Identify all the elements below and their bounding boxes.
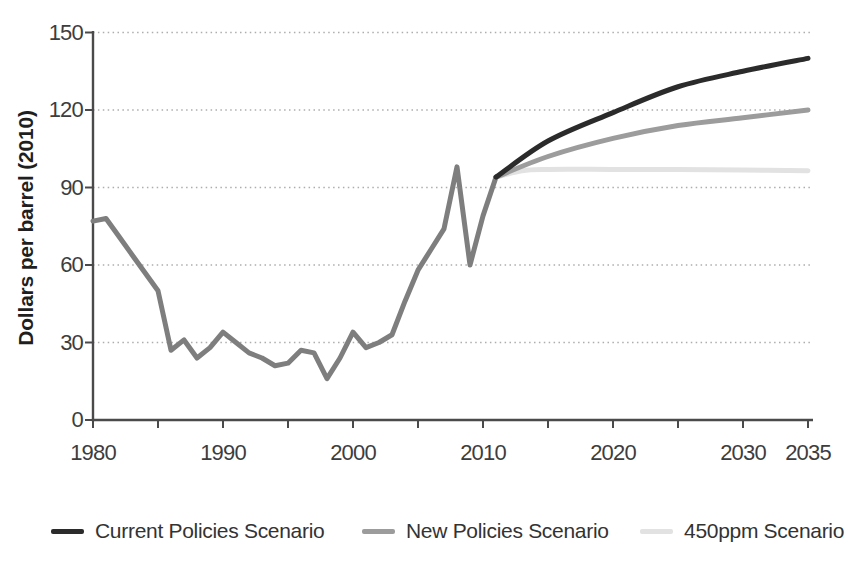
- svg-text:1980: 1980: [70, 440, 116, 465]
- legend-item-450ppm-scenario: 450ppm Scenario: [640, 518, 844, 544]
- legend-label-450ppm-scenario: 450ppm Scenario: [684, 519, 844, 543]
- svg-text:2000: 2000: [330, 440, 376, 465]
- oil-price-scenarios-chart: Dollars per barrel (2010) 03060901201501…: [0, 0, 853, 564]
- legend-swatch-new-policies-scenario: [362, 529, 395, 534]
- svg-text:1990: 1990: [200, 440, 246, 465]
- series-450ppm-scenario: [496, 169, 808, 177]
- svg-text:2020: 2020: [590, 440, 636, 465]
- y-tick-labels: 0306090120150: [49, 20, 84, 433]
- legend-label-new-policies-scenario: New Policies Scenario: [406, 519, 609, 543]
- legend-swatch-450ppm-scenario: [640, 529, 673, 534]
- svg-text:90: 90: [60, 175, 83, 200]
- svg-text:120: 120: [49, 97, 84, 122]
- x-tick-labels: 1980199020002010202020302035: [70, 440, 831, 465]
- chart-plot-area: 0306090120150198019902000201020202030203…: [0, 0, 853, 564]
- legend-item-current-policies-scenario: Current Policies Scenario: [51, 518, 324, 544]
- svg-text:2035: 2035: [785, 440, 831, 465]
- svg-text:0: 0: [72, 407, 84, 432]
- legend-swatch-current-policies-scenario: [51, 529, 84, 534]
- tick-marks: [85, 33, 808, 429]
- svg-text:2030: 2030: [720, 440, 766, 465]
- axes: [92, 31, 813, 421]
- series-historical-price: [93, 167, 496, 379]
- legend-label-current-policies-scenario: Current Policies Scenario: [95, 519, 324, 543]
- svg-text:60: 60: [60, 252, 83, 277]
- legend-item-new-policies-scenario: New Policies Scenario: [362, 518, 609, 544]
- svg-text:2010: 2010: [460, 440, 506, 465]
- svg-text:30: 30: [60, 330, 83, 355]
- svg-text:150: 150: [49, 20, 84, 45]
